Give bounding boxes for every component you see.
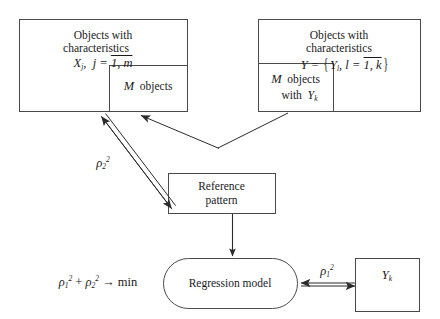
objects-y-formula-member-sub: l	[337, 64, 339, 73]
connector-objects-y-to-objects-x	[141, 113, 288, 148]
rho2-sup: 2	[106, 155, 110, 164]
rho-1-squared-label: ρ12	[312, 264, 342, 279]
m-objects-yk-word: objects	[287, 73, 320, 85]
objective-arrow: →	[102, 275, 115, 289]
reference-pattern-line1: Reference	[168, 180, 275, 194]
objects-x-line1: Objects with	[19, 29, 187, 43]
yk-output-rect	[356, 259, 420, 312]
m-objects-yk-count-symbol: M	[271, 72, 281, 86]
reference-pattern-line2: pattern	[168, 194, 275, 208]
objective-function: ρ12 + ρ22 → min	[38, 275, 158, 290]
objects-x-formula-range: 1, m	[111, 56, 133, 70]
rho1-sup: 2	[330, 263, 334, 272]
diagram-canvas: Objects with characteristics Xj, j = 1, …	[0, 0, 440, 319]
objects-y-formula-member: Y	[330, 58, 337, 72]
objects-y-formula-range: 1, k	[364, 58, 382, 72]
objects-x-formula-rest: j =	[93, 56, 108, 70]
objects-y-formula-index: l =	[345, 58, 360, 72]
m-objects-count-symbol: M	[124, 79, 134, 93]
objective-target: min	[118, 275, 137, 289]
m-objects-subbox-label: M objects	[109, 79, 187, 94]
yk-output-var-sub: k	[389, 274, 392, 283]
m-objects-yk-var-sub: k	[314, 94, 317, 103]
objects-y-line1: Objects with	[258, 29, 420, 43]
objective-plus: +	[75, 275, 82, 289]
m-objects-yk-with: with	[281, 89, 301, 101]
rho-2-squared-label: ρ22	[88, 156, 118, 171]
objective-term1-sup: 2	[68, 274, 72, 283]
objects-y-line2: characteristics	[258, 42, 420, 56]
arrow-regression-model-to-yk	[301, 283, 355, 286]
objects-x-line2: characteristics	[12, 42, 180, 56]
objects-x-formula-sub: j	[81, 62, 83, 71]
m-objects-word: objects	[140, 80, 173, 92]
objects-x-formula: Xj, j = 1, m	[19, 56, 187, 71]
regression-model-label: Regression model	[163, 277, 297, 291]
objects-y-formula-lhs: Y =	[301, 58, 320, 72]
yk-output-var: Y	[382, 268, 389, 282]
yk-output-label: Yk	[355, 268, 419, 283]
m-objects-yk-line1: M objects	[258, 72, 333, 87]
m-objects-yk-line2: with Yk	[262, 88, 337, 103]
objective-term2-sup: 2	[95, 274, 99, 283]
